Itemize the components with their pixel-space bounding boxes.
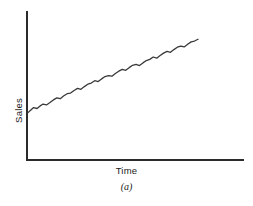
chart-axes (27, 12, 243, 160)
sales-trend-line (28, 39, 198, 112)
y-axis-label-text: Sales (13, 98, 24, 123)
y-axis-label: Sales (10, 92, 26, 128)
x-axis-label-text: Time (116, 165, 138, 176)
figure-container: Sales Time (a) (0, 0, 253, 206)
figure-caption: (a) (0, 181, 253, 192)
x-axis-label: Time (0, 165, 253, 176)
